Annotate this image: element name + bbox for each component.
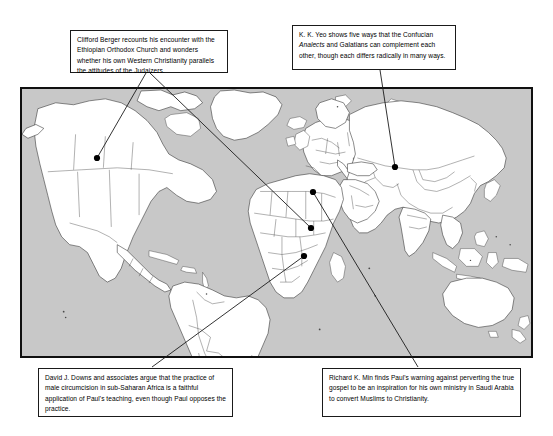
landmass-tasmania <box>488 331 498 337</box>
island-speck <box>63 311 65 313</box>
island-speck <box>495 236 497 238</box>
callout-yeo[interactable]: K. K. Yeo shows five ways that the Confu… <box>292 25 456 70</box>
callout-min[interactable]: Richard K. Min finds Paul's warning agai… <box>322 368 521 417</box>
island-speck <box>368 267 370 269</box>
callout-downs[interactable]: David J. Downs and associates argue that… <box>38 368 233 417</box>
island-speck <box>470 260 471 261</box>
island-speck <box>319 329 321 331</box>
island-speck <box>65 317 67 319</box>
callout-berger-text: Clifford Berger recounts his encounter w… <box>77 36 215 74</box>
callout-yeo-text: K. K. Yeo shows five ways that the Confu… <box>299 31 445 59</box>
callout-downs-text: David J. Downs and associates argue that… <box>45 374 226 412</box>
callout-berger[interactable]: Clifford Berger recounts his encounter w… <box>70 30 228 73</box>
landmass-ireland <box>286 136 296 146</box>
world-map-svg <box>22 89 531 356</box>
island-speck <box>374 295 376 297</box>
world-map <box>20 87 533 358</box>
figure-root: Clifford Berger recounts his encounter w… <box>0 0 553 436</box>
island-speck <box>206 293 208 295</box>
island-speck <box>337 106 339 108</box>
callout-min-text: Richard K. Min finds Paul's warning agai… <box>329 374 514 402</box>
island-speck <box>509 244 511 246</box>
